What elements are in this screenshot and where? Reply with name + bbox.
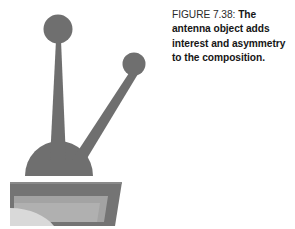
figure-page: antenna-object Gray silhouette of an ant… — [0, 0, 295, 229]
large-dish — [44, 15, 73, 44]
antenna-illustration: antenna-object Gray silhouette of an ant… — [0, 0, 170, 229]
figure-caption-label: FIGURE 7.38: — [172, 9, 235, 20]
main-mast — [50, 40, 66, 160]
small-dish — [123, 53, 146, 76]
figure-caption: FIGURE 7.38: The antenna object adds int… — [172, 8, 295, 66]
antenna-illustration-svg: antenna-object Gray silhouette of an ant… — [0, 0, 170, 229]
base-top-edge — [10, 182, 122, 184]
angled-arm — [72, 70, 138, 160]
